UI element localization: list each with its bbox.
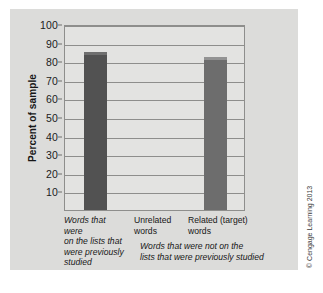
y-axis-tick-label: 100 [40, 19, 58, 31]
y-axis-tick-mark [58, 118, 62, 119]
y-axis-tick-mark [58, 80, 62, 81]
category-label-1: Words that were on the lists that were p… [64, 215, 126, 268]
bar-body [84, 55, 107, 210]
plot-area [64, 25, 245, 211]
bar-body [204, 60, 227, 210]
bar [204, 57, 227, 210]
y-axis-tick-mark [58, 25, 62, 26]
y-axis-tick-mark [58, 99, 62, 100]
axis-group-caption: Words that were not on the lists that we… [140, 241, 295, 262]
y-axis-tick-mark [58, 192, 62, 193]
y-axis-tick-mark [58, 136, 62, 137]
y-axis-tick-label: 30 [46, 149, 58, 161]
y-axis-tick-label: 70 [46, 75, 58, 87]
y-axis-tick-label: 60 [46, 93, 58, 105]
copyright-credit: © Cengage Learning 2013 [303, 176, 315, 268]
y-axis-tick-label: 50 [46, 112, 58, 124]
y-axis-tick-label: 90 [46, 38, 58, 50]
gridline [65, 45, 244, 46]
y-axis-tick-mark [58, 62, 62, 63]
y-axis-tick-mark [58, 173, 62, 174]
y-axis-tick-label: 40 [46, 131, 58, 143]
category-label-3: Related (target) words [188, 215, 254, 236]
y-axis-tick-label: 10 [46, 186, 58, 198]
y-axis-tick-mark [58, 155, 62, 156]
y-axis-tick-label: 20 [46, 168, 58, 180]
gridline [65, 26, 244, 27]
category-label-2: Unrelated words [134, 215, 186, 236]
y-axis-tick-labels: 100908070605040302010 [10, 25, 62, 211]
bar [84, 52, 107, 210]
y-axis-tick-label: 80 [46, 56, 58, 68]
figure-panel: Percent of sample 100908070605040302010 … [10, 9, 298, 270]
y-axis-tick-mark [58, 43, 62, 44]
